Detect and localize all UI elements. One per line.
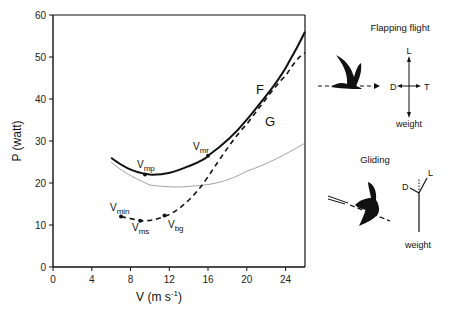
x-tick-label: 12: [164, 274, 176, 285]
x-tick-label: 0: [50, 274, 56, 285]
glide-lift-label: L: [428, 168, 433, 178]
y-tick-label: 30: [35, 136, 47, 147]
drag-vector: [410, 188, 419, 193]
vmp-point: [143, 173, 147, 177]
bird-flapping-icon: [331, 55, 362, 89]
x-tick-label: 24: [280, 274, 292, 285]
gliding-panel: Gliding L D weight: [328, 154, 433, 250]
gliding-curve-G: [121, 53, 305, 221]
y-tick-label: 40: [35, 94, 47, 105]
lift-vector: [419, 178, 427, 193]
flapping-title: Flapping flight: [370, 22, 430, 33]
arrow-right-icon: [374, 83, 380, 89]
vmp-label: Vmp: [137, 159, 155, 173]
vmr-label: Vmr: [193, 141, 209, 155]
y-tick-label: 50: [35, 52, 47, 63]
flapping-flight-panel: Flapping flight L D T weight: [318, 22, 430, 129]
x-tick-label: 8: [128, 274, 134, 285]
curve-label-F: F: [256, 82, 264, 97]
vms-label: Vms: [132, 222, 149, 236]
y-tick-label: 10: [35, 220, 47, 231]
force-thrust-label: T: [424, 82, 430, 92]
vbg-label: Vbg: [168, 219, 184, 233]
x-tick-label: 4: [89, 274, 95, 285]
y-tick-label: 20: [35, 178, 47, 189]
x-axis-title: V (m s-1): [136, 289, 182, 304]
curve-label-G: G: [265, 114, 275, 129]
vbg-point: [163, 214, 167, 218]
y-axis: 0 10 20 30 40 50 60 P (watt): [10, 10, 53, 273]
glide-weight-label: weight: [404, 240, 432, 250]
x-tick-label: 16: [202, 274, 214, 285]
bird-gliding-icon: [355, 182, 379, 226]
force-drag-label: D: [390, 82, 397, 92]
x-axis: 0 4 8 12 16 20 24 V (m s-1): [50, 267, 291, 304]
vms-point: [138, 219, 142, 223]
glide-drag-label: D: [402, 182, 409, 192]
chart-figure: 0 10 20 30 40 50 60 P (watt) 0 4 8 12 16…: [0, 0, 449, 313]
vmin-label: Vmin: [110, 202, 130, 216]
x-tick-label: 20: [241, 274, 253, 285]
force-weight-label: weight: [395, 119, 423, 129]
y-tick-label: 0: [40, 262, 46, 273]
force-lift-label: L: [406, 46, 411, 56]
gliding-title: Gliding: [360, 154, 390, 165]
y-tick-label: 60: [35, 10, 47, 21]
y-axis-title: P (watt): [10, 120, 24, 161]
